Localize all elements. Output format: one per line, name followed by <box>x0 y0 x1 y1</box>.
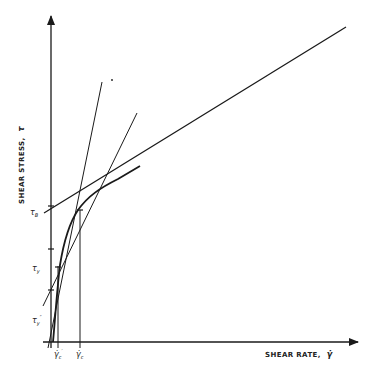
gamma-c-label: γ̇c <box>76 350 84 360</box>
svg-text:SHEAR STRESS, τ: SHEAR STRESS, τ <box>17 126 26 204</box>
tau-y-double-prime-label: τy″ <box>32 314 42 327</box>
stray-dot <box>111 79 113 81</box>
tau-y-label: τy <box>32 264 41 275</box>
y-axis-title: SHEAR STRESS, τ <box>17 126 26 204</box>
gamma-c-prime-label: γ̇c′ <box>54 348 63 360</box>
flow-curve-diagram: SHEAR STRESS, τ τB τy τy″ γ̇c′ γ̇c SHEAR… <box>0 0 374 374</box>
tau-b-label: τB <box>30 208 39 218</box>
flow-curve <box>53 166 140 342</box>
bingham-line <box>44 27 346 213</box>
x-axis-title: SHEAR RATE, γ̇ <box>265 349 333 359</box>
